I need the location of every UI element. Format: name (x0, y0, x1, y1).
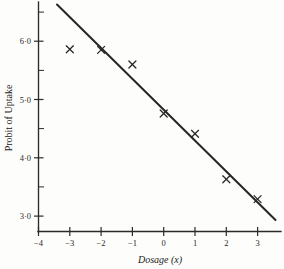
probit-dosage-chart: 6·0 5·0 4·0 3·0 −4 −3 −2 −1 0 1 2 3 (0, 0, 284, 269)
x-tick-label-3: 3 (255, 238, 259, 248)
fitted-regression-line (57, 5, 276, 221)
data-point-markers (66, 46, 261, 203)
x-tick-label-neg2: −2 (97, 238, 106, 248)
y-tick-label-4-0: 4·0 (20, 153, 31, 163)
x-tick-label-0: 0 (162, 238, 166, 248)
x-tick-label-2: 2 (224, 238, 228, 248)
y-axis-title: Probit of Uptake (3, 84, 14, 151)
x-tick-label-neg3: −3 (65, 238, 74, 248)
x-axis-title: Dosage (x) (137, 254, 183, 266)
data-point-marker (129, 61, 136, 68)
y-axis-tick-labels: 6·0 5·0 4·0 3·0 (20, 36, 31, 221)
chart-canvas: 6·0 5·0 4·0 3·0 −4 −3 −2 −1 0 1 2 3 (0, 0, 284, 269)
x-tick-label-neg4: −4 (34, 238, 44, 248)
x-axis-tick-labels: −4 −3 −2 −1 0 1 2 3 (34, 238, 260, 248)
y-tick-label-3-0: 3·0 (20, 211, 31, 221)
y-tick-label-6-0: 6·0 (20, 36, 31, 46)
x-tick-label-neg1: −1 (128, 238, 137, 248)
x-tick-label-1: 1 (193, 238, 197, 248)
y-tick-label-5-0: 5·0 (20, 95, 31, 105)
data-point-marker (192, 130, 199, 137)
data-point-marker (66, 46, 73, 53)
axes-group (38, 2, 281, 232)
data-point-marker (223, 176, 230, 183)
